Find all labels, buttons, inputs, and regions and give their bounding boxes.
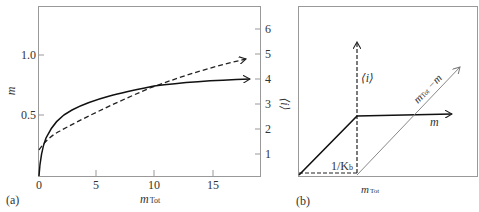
x-tick-label: 0	[36, 178, 42, 192]
y-right-tick-label: 1	[265, 147, 271, 161]
x-tick-label: 5	[93, 178, 99, 192]
figure: 1.0 0.5 m 6 5 4 3 2 1 ⟨i⟩ 0 5 10 15 mTot…	[0, 0, 479, 212]
label-i: ⟨i⟩	[361, 71, 374, 85]
x-tick-label: 10	[148, 178, 160, 192]
panel-label-b: (b)	[296, 194, 310, 208]
plot-frame-b	[299, 7, 478, 177]
x-axis-label-b: mTot	[361, 183, 379, 195]
y-axis-label-right: ⟨i⟩	[278, 98, 292, 111]
y-right-tick-label: 4	[265, 72, 271, 86]
y-axis-label-left: m	[4, 86, 18, 95]
label-1-over-kb: 1/Kb	[331, 159, 353, 173]
label-m: m	[430, 115, 439, 129]
y-right-tick-label: 5	[265, 47, 271, 61]
y-axis-left	[39, 55, 45, 115]
y-right-tick-label: 3	[265, 97, 271, 111]
y-tick-label: 0.5	[21, 108, 36, 122]
y-axis-right	[255, 29, 261, 154]
x-tick-label: 15	[207, 178, 219, 192]
series-m-solid	[39, 79, 250, 176]
y-tick-label: 1.0	[21, 48, 36, 62]
y-right-tick-label: 6	[265, 22, 271, 36]
x-axis	[96, 170, 213, 177]
x-axis-label-a: mTot	[140, 192, 161, 206]
panel-b: ⟨i⟩ m mTot −m 1/Kb mTot (b)	[296, 7, 478, 209]
y-right-tick-label: 2	[265, 122, 271, 136]
panel-a: 1.0 0.5 m 6 5 4 3 2 1 ⟨i⟩ 0 5 10 15 mTot…	[4, 7, 292, 208]
series-i-dashed	[39, 59, 246, 150]
panel-label-a: (a)	[6, 193, 19, 207]
plot-frame-a	[39, 7, 261, 177]
